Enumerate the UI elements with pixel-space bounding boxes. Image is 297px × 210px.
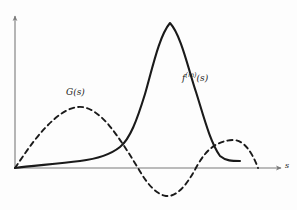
figure-canvas: G(s) f(m)(s) s [0,0,297,210]
curve-f-solid [15,23,240,168]
plot-svg [0,0,297,210]
curve-label-g: G(s) [66,88,85,97]
curve-label-f-superscript: (m) [185,71,196,79]
curve-label-g-text: G(s) [66,87,85,97]
axes-group [15,16,281,168]
curve-label-f-argument: (s) [197,73,209,83]
x-axis-label: s [285,162,289,170]
curve-label-f: f(m)(s) [182,72,208,83]
x-axis-label-text: s [285,161,289,170]
